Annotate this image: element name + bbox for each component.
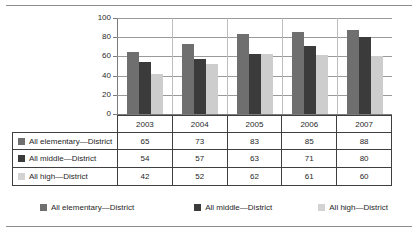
table-cell-r1-c1: 57 xyxy=(173,150,228,166)
legend-item-0: All elementary—District xyxy=(40,203,134,212)
legend-item-label: All high—District xyxy=(329,203,388,212)
table-row-label-text: All high—District xyxy=(29,172,88,181)
ytick-label-40: 40 xyxy=(102,72,111,80)
bar-2006-series-2 xyxy=(316,55,328,114)
bar-2007-series-1 xyxy=(359,37,371,114)
bar-2005-series-2 xyxy=(261,54,273,114)
bar-group-2003 xyxy=(117,18,172,114)
table-cell-r0-c4: 88 xyxy=(337,133,391,149)
bar-group-2007 xyxy=(337,18,392,114)
ytick-label-100: 100 xyxy=(98,14,111,22)
series-swatch-icon xyxy=(18,155,25,162)
table-row: All elementary—District6573838588 xyxy=(13,133,391,150)
table-row-label: All elementary—District xyxy=(13,133,118,149)
bar-2004-series-0 xyxy=(182,44,194,114)
ytick-label-20: 20 xyxy=(102,91,111,99)
bar-2005-series-0 xyxy=(237,34,249,114)
table-row-label: All high—District xyxy=(13,168,118,185)
table-row-label-text: All middle—District xyxy=(29,154,96,163)
bar-2003-series-0 xyxy=(127,52,139,114)
table-cell-r2-c0: 42 xyxy=(118,168,173,185)
bar-2005-series-1 xyxy=(249,54,261,114)
data-table: All elementary—District6573838588All mid… xyxy=(12,132,392,186)
series-swatch-icon xyxy=(18,173,25,180)
table-cell-r1-c0: 54 xyxy=(118,150,173,166)
bar-2007-series-2 xyxy=(371,56,383,114)
table-row-label-text: All elementary—District xyxy=(29,137,112,146)
year-header-2003: 2003 xyxy=(118,116,173,132)
series-swatch-icon xyxy=(18,138,25,145)
plot-area: 100 80 60 40 20 0 xyxy=(117,18,392,114)
bottom-divider-rule xyxy=(6,226,412,227)
table-year-header-row: 20032004200520062007 xyxy=(117,115,392,132)
year-header-2007: 2007 xyxy=(337,116,391,132)
year-header-2005: 2005 xyxy=(228,116,283,132)
legend-swatch-icon xyxy=(318,204,325,211)
legend-item-label: All elementary—District xyxy=(51,203,134,212)
ytick-label-0: 0 xyxy=(107,110,111,118)
year-header-2006: 2006 xyxy=(282,116,337,132)
legend-item-1: All middle—District xyxy=(194,203,272,212)
legend-swatch-icon xyxy=(194,204,201,211)
table-cell-r1-c3: 71 xyxy=(282,150,337,166)
table-cell-r2-c2: 62 xyxy=(228,168,283,185)
table-cell-r1-c4: 80 xyxy=(337,150,391,166)
legend-swatch-icon xyxy=(40,204,47,211)
ytick-label-80: 80 xyxy=(102,33,111,41)
year-header-2004: 2004 xyxy=(173,116,228,132)
bar-2003-series-2 xyxy=(151,74,163,114)
chart-legend: All elementary—DistrictAll middle—Distri… xyxy=(12,200,392,214)
table-cell-r2-c4: 60 xyxy=(337,168,391,185)
table-cell-r0-c0: 65 xyxy=(118,133,173,149)
chart-figure: 100 80 60 40 20 0 20032004200520062007 A… xyxy=(0,0,418,234)
bar-group-2006 xyxy=(282,18,337,114)
legend-item-label: All middle—District xyxy=(205,203,272,212)
bar-2006-series-0 xyxy=(292,32,304,114)
bar-groups xyxy=(117,18,392,114)
bar-2003-series-1 xyxy=(139,62,151,114)
bar-2004-series-2 xyxy=(206,64,218,114)
table-cell-r2-c3: 61 xyxy=(282,168,337,185)
bar-group-2004 xyxy=(172,18,227,114)
table-row-label: All middle—District xyxy=(13,150,118,166)
table-cell-r0-c3: 85 xyxy=(282,133,337,149)
bar-2007-series-0 xyxy=(347,30,359,114)
bar-2006-series-1 xyxy=(304,46,316,114)
table-cell-r0-c2: 83 xyxy=(228,133,283,149)
table-cell-r1-c2: 63 xyxy=(228,150,283,166)
bar-2004-series-1 xyxy=(194,59,206,114)
ytick-label-60: 60 xyxy=(102,52,111,60)
table-row: All middle—District5457637180 xyxy=(13,150,391,167)
table-cell-r2-c1: 52 xyxy=(173,168,228,185)
table-cell-r0-c1: 73 xyxy=(173,133,228,149)
table-row: All high—District4252626160 xyxy=(13,168,391,185)
bar-group-2005 xyxy=(227,18,282,114)
top-divider-rule xyxy=(6,5,412,6)
legend-item-2: All high—District xyxy=(318,203,388,212)
